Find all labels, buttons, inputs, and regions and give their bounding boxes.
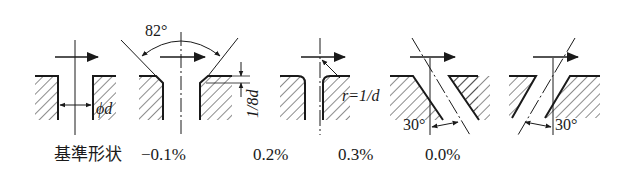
shape-inclined-forward: 30° [390,38,490,135]
shape-reference: ϕd [35,40,116,135]
diameter-label: ϕd [96,100,113,118]
angle-label-30-b: 30° [555,116,577,133]
angle-arrow-30 [525,122,551,127]
angle-label-82: 82° [145,22,167,39]
angle-arrow-30 [432,122,458,127]
caption-inclined-forward: 0.3% [338,145,373,164]
shape-rounded: r=1/d [280,38,380,135]
caption-rounded: 0.2% [253,145,288,164]
caption-inclined-backward: 0.0% [425,145,460,164]
shape-chamfer-82: 82° 1/8d [121,22,261,135]
radius-label: r=1/d [342,87,380,104]
left-wall [35,76,58,120]
shape-inclined-backward: 30° [509,38,600,135]
orifice-shape-diagram: ϕd 82° 1/8d r=1/d [0,0,626,176]
caption-chamfer: −0.1% [141,145,186,164]
captions: 基準形状 −0.1% 0.2% 0.3% 0.0% [54,145,460,164]
caption-reference: 基準形状 [54,145,122,164]
angle-label-30-a: 30° [403,116,425,133]
depth-label-1-8d: 1/8d [244,89,261,118]
